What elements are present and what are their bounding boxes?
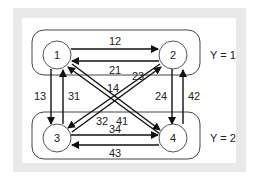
node-2: 2 — [159, 41, 187, 69]
edge-label-23: 23 — [132, 70, 144, 82]
node-1: 1 — [43, 41, 71, 69]
transition-diagram: 1 2 3 4 12 21 23 14 13 31 24 42 32 41 34… — [0, 0, 259, 188]
node-3-label: 3 — [54, 132, 60, 144]
node-1-label: 1 — [54, 49, 60, 61]
edge-label-13: 13 — [34, 90, 46, 102]
group-label-y1: Y = 1 — [210, 49, 236, 61]
edge-label-12: 12 — [109, 35, 121, 47]
edge-label-43: 43 — [109, 147, 121, 159]
edge-label-42: 42 — [188, 90, 200, 102]
node-2-label: 2 — [170, 49, 176, 61]
edge-label-32: 32 — [96, 115, 108, 127]
node-4: 4 — [159, 124, 187, 152]
edge-label-21: 21 — [109, 64, 121, 76]
edge-label-14: 14 — [107, 82, 119, 94]
edge-label-24: 24 — [155, 90, 167, 102]
edge-label-31: 31 — [68, 90, 80, 102]
edge-label-34: 34 — [109, 123, 121, 135]
group-label-y2: Y = 2 — [210, 132, 236, 144]
node-3: 3 — [43, 124, 71, 152]
node-4-label: 4 — [170, 132, 176, 144]
